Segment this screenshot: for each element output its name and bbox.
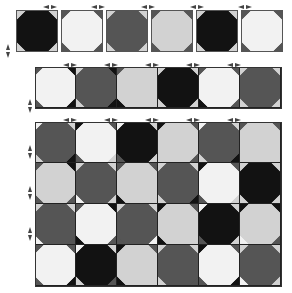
swap-columns-arrow-icon[interactable] — [186, 118, 200, 122]
swap-rows-arrow-icon[interactable] — [28, 227, 32, 241]
swap-rows-arrow-icon[interactable] — [28, 99, 32, 113]
swap-rows-arrow-icon[interactable] — [6, 44, 10, 58]
swap-columns-arrow-icon[interactable] — [91, 5, 105, 9]
swap-columns-arrow-icon[interactable] — [190, 5, 204, 9]
octagon-face — [152, 11, 192, 51]
swap-columns-arrow-icon[interactable] — [104, 118, 118, 122]
octagon-face — [242, 11, 282, 51]
swap-columns-arrow-icon[interactable] — [63, 118, 77, 122]
swap-columns-arrow-icon[interactable] — [63, 63, 77, 67]
grid-frame — [35, 122, 282, 287]
swap-rows-arrow-icon[interactable] — [28, 186, 32, 200]
swap-columns-arrow-icon[interactable] — [238, 5, 252, 9]
swap-rows-arrow-icon[interactable] — [28, 145, 32, 159]
loose-tile[interactable] — [241, 10, 283, 52]
octagon-face — [107, 11, 147, 51]
grid-frame — [35, 67, 282, 109]
loose-tile[interactable] — [151, 10, 193, 52]
octagon-face — [17, 11, 57, 51]
loose-tile[interactable] — [196, 10, 238, 52]
loose-tile[interactable] — [16, 10, 58, 52]
swap-columns-arrow-icon[interactable] — [186, 63, 200, 67]
swap-columns-arrow-icon[interactable] — [227, 118, 241, 122]
swap-columns-arrow-icon[interactable] — [145, 118, 159, 122]
swap-columns-arrow-icon[interactable] — [145, 63, 159, 67]
swap-columns-arrow-icon[interactable] — [43, 5, 57, 9]
swap-columns-arrow-icon[interactable] — [104, 63, 118, 67]
loose-tile[interactable] — [106, 10, 148, 52]
swap-columns-arrow-icon[interactable] — [227, 63, 241, 67]
octagon-face — [62, 11, 102, 51]
octagon-face — [197, 11, 237, 51]
loose-tile[interactable] — [61, 10, 103, 52]
swap-columns-arrow-icon[interactable] — [141, 5, 155, 9]
